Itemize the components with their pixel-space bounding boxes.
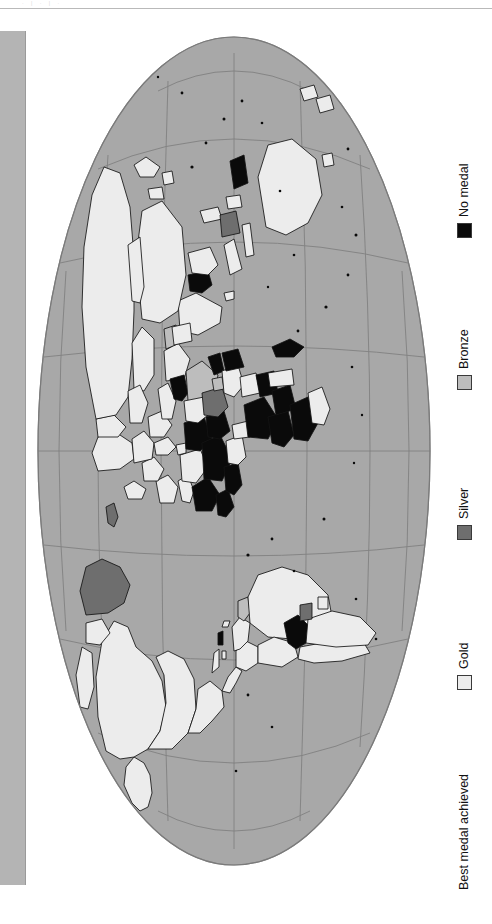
legend-item-silver[interactable]: Silver [436,390,492,540]
legend-title-wrap: Best medal achieved [436,690,492,890]
region-paraguay [300,603,312,621]
legend-label-bronze: Bronze [458,329,471,369]
legend-label-silver: Silver [458,488,471,519]
region-japan-south [162,171,174,185]
region-pakistan [172,323,192,345]
region-uruguay [318,597,328,609]
legend-title: Best medal achieved [458,774,471,890]
legend-swatch-gold [457,675,472,690]
legend-swatch-no-medal [457,223,472,238]
legend-swatch-bronze [457,375,472,390]
page-top-rule [0,8,492,9]
world-map-figure [36,35,432,867]
region-tasmania [322,153,334,167]
region-tunisia [176,443,186,455]
region-borneo [220,211,240,237]
legend-item-no-medal[interactable]: No medal [436,88,492,238]
region-eritrea [212,377,224,391]
map-legend: Best medal achieved Gold Silver Bronze N… [436,0,492,924]
world-map-rotation-wrapper [36,35,432,867]
region-sulawesi [226,195,242,209]
legend-item-gold[interactable]: Gold [436,540,492,690]
legend-item-bronze[interactable]: Bronze [436,240,492,390]
legend-swatch-silver [457,525,472,540]
page-top-ghost-text: · | · | · [22,0,222,7]
legend-label-no-medal: No medal [458,164,471,218]
world-map-svg [36,35,432,867]
region-korea [148,187,164,199]
region-jamaica [222,651,226,659]
region-nigeria [226,435,246,465]
region-hispaniola [218,631,223,645]
page-edge-shadow-bar [0,31,26,885]
legend-label-gold: Gold [458,643,471,669]
region-sri-lanka [224,291,234,301]
